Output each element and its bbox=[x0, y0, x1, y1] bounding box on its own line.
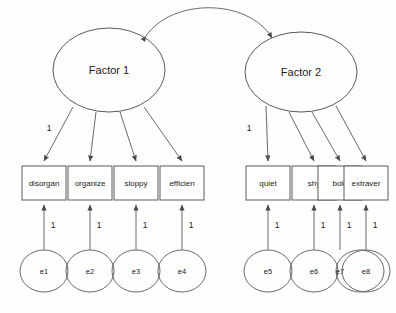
error-coefficient-e6: 1 bbox=[321, 220, 326, 230]
loading-path-ind3 bbox=[120, 112, 136, 161]
loading-path-ind7 bbox=[312, 112, 340, 161]
e2-label: e2 bbox=[86, 267, 94, 276]
error-coefficient-e3: 1 bbox=[143, 220, 148, 230]
error-coefficient-e4: 1 bbox=[189, 220, 194, 230]
ind5-label: quiet bbox=[259, 179, 277, 188]
loading-paths-factor1: 1 bbox=[44, 107, 182, 161]
loading-path-ind5 bbox=[266, 106, 268, 161]
e1-label: e1 bbox=[40, 267, 48, 276]
loading-coefficient-ind1: 1 bbox=[47, 123, 52, 133]
ind8-label: extraver bbox=[352, 179, 381, 188]
indicator-node-ind5[interactable]: quiet bbox=[246, 166, 290, 200]
indicator-node-ind8[interactable]: extraver bbox=[344, 166, 388, 200]
loading-path-ind8 bbox=[336, 106, 366, 161]
indicator-node-ind3[interactable]: sloppy bbox=[114, 166, 158, 200]
error-node-e8[interactable]: e8 bbox=[342, 250, 390, 292]
loading-path-ind1 bbox=[44, 107, 73, 161]
factor1-label: Factor 1 bbox=[89, 64, 129, 76]
indicator-node-ind2[interactable]: organize bbox=[68, 166, 112, 200]
ind2-label: organize bbox=[75, 179, 106, 188]
loading-path-ind2 bbox=[90, 112, 96, 161]
loading-coefficient-ind5: 1 bbox=[247, 123, 252, 133]
error-node-e2[interactable]: e2 bbox=[66, 250, 114, 292]
error-coefficient-e7: 1 bbox=[347, 220, 352, 230]
covariance-curve bbox=[146, 8, 272, 38]
e6-label: e6 bbox=[310, 267, 318, 276]
error-node-e6[interactable]: e6 bbox=[290, 250, 338, 292]
error-node-e1[interactable]: e1 bbox=[20, 250, 68, 292]
factor2-label: Factor 2 bbox=[281, 66, 321, 78]
factor-node-factor1[interactable]: Factor 1 bbox=[53, 28, 165, 112]
loading-paths-factor2: 1 bbox=[247, 106, 366, 161]
e8-label: e8 bbox=[362, 267, 370, 276]
error-paths: 1 1 1 1 1 1 1 1 bbox=[44, 205, 378, 250]
error-node-e3[interactable]: e3 bbox=[112, 250, 160, 292]
error-node-e4[interactable]: e4 bbox=[158, 250, 206, 292]
e3-label: e3 bbox=[132, 267, 140, 276]
error-coefficient-e2: 1 bbox=[97, 220, 102, 230]
loading-path-ind6 bbox=[289, 112, 314, 161]
indicator-node-ind1[interactable]: disorgan bbox=[22, 166, 66, 200]
e4-label: e4 bbox=[178, 267, 186, 276]
factor-covariance-path bbox=[146, 8, 272, 38]
e7-label: e7 bbox=[336, 267, 344, 276]
error-node-e7[interactable]: e7 bbox=[336, 250, 384, 292]
ind3-label: sloppy bbox=[124, 179, 147, 188]
error-coefficient-e5: 1 bbox=[275, 220, 280, 230]
indicator-node-ind4[interactable]: efficien bbox=[160, 166, 204, 200]
e5-label: e5 bbox=[264, 267, 272, 276]
ind4-label: efficien bbox=[169, 179, 194, 188]
error-node-e5[interactable]: e5 bbox=[244, 250, 292, 292]
error-coefficient-e8: 1 bbox=[373, 220, 378, 230]
factor-node-factor2[interactable]: Factor 2 bbox=[245, 32, 357, 112]
ind1-label: disorgan bbox=[29, 179, 60, 188]
loading-path-ind4 bbox=[144, 107, 182, 161]
path-diagram: Factor 1 Factor 2 1 1 disorgan organize … bbox=[0, 0, 396, 313]
error-coefficient-e1: 1 bbox=[51, 220, 56, 230]
sem-diagram-canvas: Factor 1 Factor 2 1 1 disorgan organize … bbox=[0, 0, 396, 313]
